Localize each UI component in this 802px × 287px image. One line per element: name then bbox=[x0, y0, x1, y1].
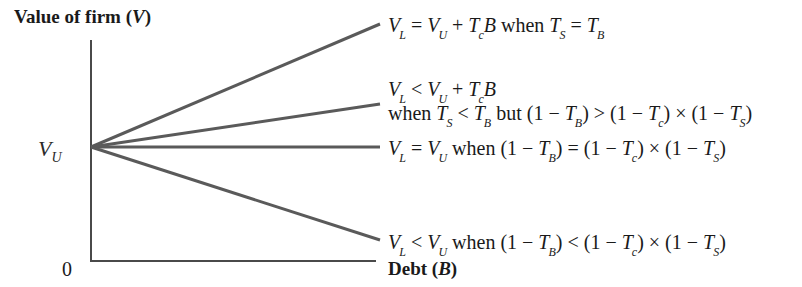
y-axis-label: Value of firm (V) bbox=[14, 6, 151, 28]
origin-label: 0 bbox=[62, 258, 72, 281]
label-line-1: VL = VU + TcB when TS = TB bbox=[388, 14, 604, 46]
line-vl-less-vu-plus-tcb bbox=[91, 104, 380, 147]
intercept-label: VU bbox=[38, 136, 62, 166]
line-vl-equals-vu-plus-tcb bbox=[91, 24, 380, 147]
label-line-2b: when TS < TB but (1 − TB) > (1 − Tc) × (… bbox=[388, 102, 752, 134]
label-line-4: VL < VU when (1 − TB) < (1 − Tc) × (1 − … bbox=[388, 231, 726, 263]
line-vl-less-vu bbox=[91, 147, 380, 240]
label-line-3: VL = VU when (1 − TB) = (1 − Tc) × (1 − … bbox=[388, 137, 726, 169]
